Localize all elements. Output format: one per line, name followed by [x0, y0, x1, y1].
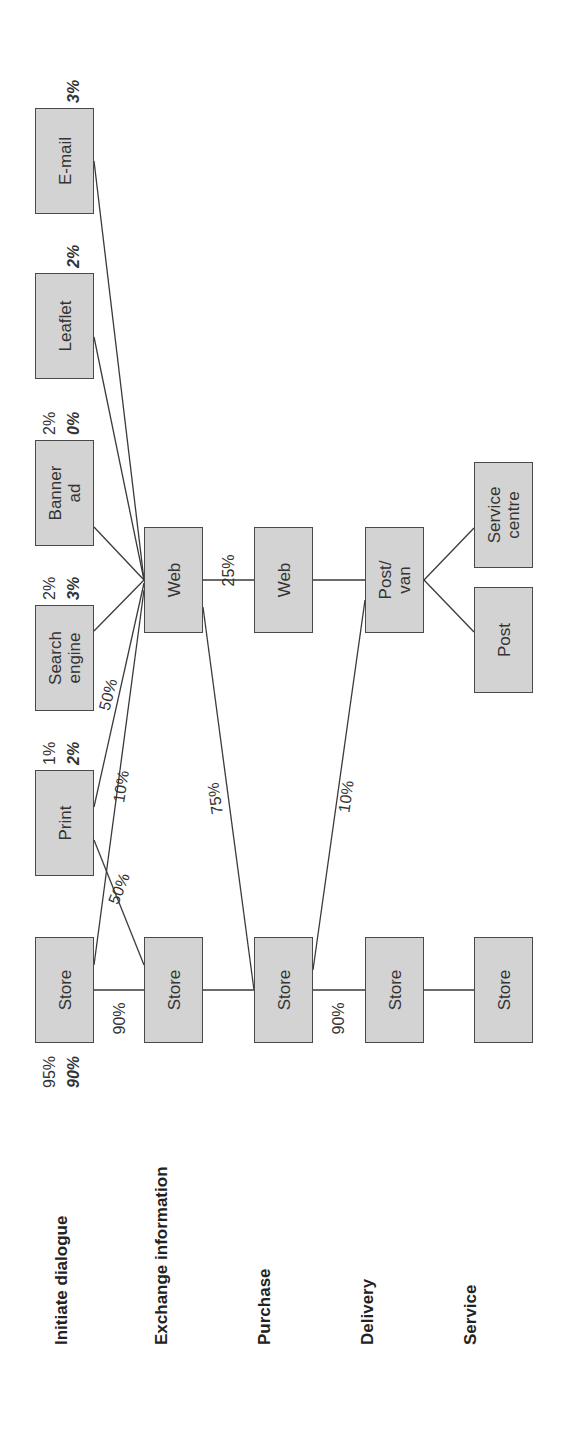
node-exchange-web: Web [144, 527, 203, 633]
edge-postvan-post [424, 580, 474, 632]
pct-store-top: 95% [41, 1056, 58, 1088]
node-initiate-print: Print [35, 770, 94, 876]
edge-label-store-store: 90% [111, 1002, 128, 1034]
node-initiate-leaflet: Leaflet [35, 273, 94, 379]
node-label: Print [55, 773, 74, 873]
node-purchase-store: Store [254, 937, 313, 1043]
node-label: Post/ van [376, 530, 414, 630]
pct-banner-top: 2% [41, 412, 58, 435]
node-label: Post [494, 590, 513, 690]
pct-leaflet-bottom: 2% [65, 245, 82, 268]
node-service-post: Post [474, 587, 533, 693]
node-service-centre: Service centre [474, 462, 533, 568]
edge-postvan-centre [424, 528, 474, 580]
connector-lines [0, 0, 562, 1437]
node-label: E-mail [55, 111, 74, 211]
stage-delivery: Delivery [358, 1279, 377, 1345]
node-label: Leaflet [55, 276, 74, 376]
node-label: Store [164, 940, 183, 1040]
pct-email-bottom: 3% [65, 80, 82, 103]
pct-store-bottom: 90% [65, 1056, 82, 1088]
node-label: Banner ad [46, 443, 84, 543]
node-exchange-store: Store [144, 937, 203, 1043]
pct-banner-bottom: 0% [65, 412, 82, 435]
node-delivery-post-van: Post/ van [365, 527, 424, 633]
node-purchase-web: Web [254, 527, 313, 633]
node-initiate-banner-ad: Banner ad [35, 440, 94, 546]
node-label: Service centre [485, 465, 523, 565]
stage-purchase: Purchase [255, 1268, 274, 1345]
pct-print-bottom: 2% [65, 742, 82, 765]
edge-search-web [94, 580, 144, 631]
stage-service: Service [461, 1285, 480, 1346]
node-label: Store [385, 940, 404, 1040]
edge-label-web-web: 25% [220, 554, 237, 586]
edge-banner-web [94, 527, 144, 580]
node-label: Store [274, 940, 293, 1040]
node-initiate-store: Store [35, 937, 94, 1043]
stage-exchange-information: Exchange information [152, 1166, 171, 1345]
customer-journey-diagram: Store Print Search engine Banner ad Leaf… [0, 0, 562, 1437]
node-label: Store [55, 940, 74, 1040]
stage-initiate-dialogue: Initiate dialogue [52, 1216, 71, 1345]
edge-label-store-delivery-store: 90% [330, 1002, 347, 1034]
node-initiate-email: E-mail [35, 108, 94, 214]
node-label: Web [274, 530, 293, 630]
node-delivery-store: Store [365, 937, 424, 1043]
pct-search-top: 2% [41, 577, 58, 600]
node-label: Web [164, 530, 183, 630]
node-initiate-search-engine: Search engine [35, 605, 94, 711]
node-label: Store [494, 940, 513, 1040]
pct-print-top: 1% [41, 742, 58, 765]
pct-search-bottom: 3% [65, 577, 82, 600]
node-label: Search engine [46, 608, 84, 708]
node-service-store: Store [474, 937, 533, 1043]
